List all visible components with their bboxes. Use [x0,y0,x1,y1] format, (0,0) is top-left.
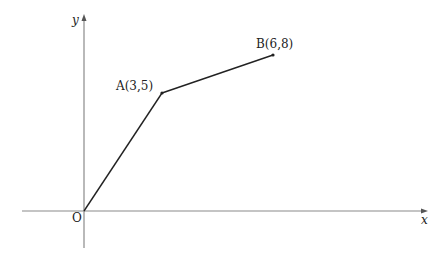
x-axis-label: x [421,213,428,227]
y-axis-label: y [71,13,79,27]
y-axis-arrow-icon [82,14,87,21]
segment-OA [84,93,162,211]
segment-AB [162,55,273,93]
origin-label: O [72,211,82,225]
point-A [160,91,163,94]
coordinate-diagram: y x O A(3,5) B(6,8) [0,0,441,264]
point-B [271,53,274,56]
point-A-label: A(3,5) [115,79,153,93]
point-B-label: B(6,8) [256,37,293,51]
